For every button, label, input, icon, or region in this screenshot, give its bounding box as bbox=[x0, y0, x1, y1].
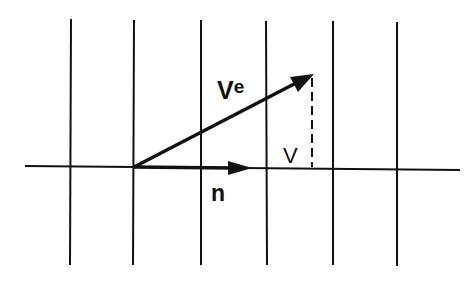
diagram-canvas bbox=[0, 0, 476, 281]
ve-arrowhead-icon bbox=[290, 74, 314, 92]
n-arrowhead-icon bbox=[228, 161, 252, 175]
label-n: n bbox=[211, 182, 225, 205]
label-ve-sup: e bbox=[234, 76, 245, 97]
grid-vertical-line bbox=[133, 20, 134, 265]
label-ve: Ve bbox=[217, 77, 244, 103]
grid-vertical-line bbox=[70, 19, 71, 265]
grid-lines bbox=[25, 19, 460, 266]
vector-n bbox=[134, 161, 252, 175]
grid-vertical-line bbox=[266, 21, 267, 265]
label-v: V bbox=[283, 145, 298, 167]
label-ve-main: V bbox=[217, 76, 234, 104]
